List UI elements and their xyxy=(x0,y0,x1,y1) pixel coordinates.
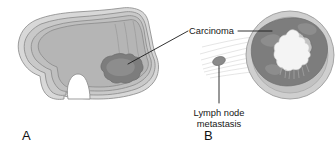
lymph-node-label-line2: metastasis xyxy=(197,119,242,129)
lymph-node-label-line1: Lymph node xyxy=(194,108,245,118)
figure-container: A xyxy=(0,0,336,154)
gastric-carcinoma-illustration: A xyxy=(0,0,336,154)
panel-b-letter: B xyxy=(204,128,213,143)
panel-a-letter: A xyxy=(22,128,31,143)
carcinoma-label: Carcinoma xyxy=(189,26,235,36)
